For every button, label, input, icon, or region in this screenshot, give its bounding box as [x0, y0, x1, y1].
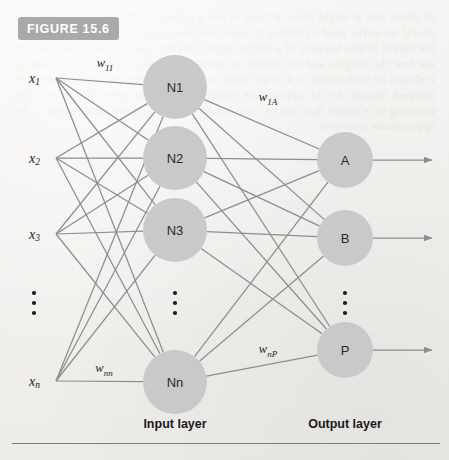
edge-N2-to-A [207, 158, 317, 159]
ellipsis-dot [343, 301, 347, 305]
node-label-A: A [341, 153, 350, 168]
node-label-Nn: Nn [167, 375, 184, 390]
node-N2: N2 [143, 126, 207, 190]
ellipsis-dot [32, 301, 36, 305]
layer-captions: Input layerOutput layer [143, 417, 382, 431]
input-variable-labels: x1x2x3xn [28, 71, 40, 391]
edge-N3-to-A [205, 171, 320, 218]
node-label-N3: N3 [167, 223, 184, 238]
node-label-N1: N1 [167, 80, 184, 95]
node-label-B: B [341, 231, 350, 246]
node-B: B [317, 210, 373, 266]
caption-output-layer: Output layer [308, 417, 382, 431]
edge-x1-to-N1 [56, 78, 143, 85]
output-arrows [373, 160, 432, 350]
edge-N3-to-P [201, 248, 322, 333]
ellipsis-output-layer [343, 291, 347, 315]
weight-label-wnP: wnP [259, 342, 278, 359]
node-label-N2: N2 [167, 151, 184, 166]
node-Nn: Nn [143, 350, 207, 414]
node-N1: N1 [143, 55, 207, 119]
ellipsis-dot [343, 291, 347, 295]
edge-x2-to-Nn [56, 158, 160, 354]
input-label-x1: x1 [28, 71, 40, 88]
ellipsis-dot [32, 291, 36, 295]
ellipsis-dot [343, 311, 347, 315]
node-A: A [317, 132, 373, 188]
edge-xn-to-N3 [56, 255, 155, 381]
node-N3: N3 [143, 198, 207, 262]
edge-N1-to-P [192, 114, 329, 327]
input-layer-nodes: N1N2N3Nn [143, 55, 207, 414]
edge-N3-to-B [207, 232, 317, 237]
weight-label-w11: w11 [97, 56, 114, 73]
edge-N2-to-B [204, 172, 320, 226]
output-layer-nodes: ABP [317, 132, 373, 378]
neural-network-diagram: N1N2N3Nn ABP x1x2x3xn w11wnnw1AwnP Input… [0, 0, 449, 460]
vertical-ellipses [32, 291, 347, 315]
ellipsis-dot [173, 301, 177, 305]
input-label-xn: xn [28, 374, 40, 391]
caption-input-layer: Input layer [143, 417, 206, 431]
weight-label-wnn: wnn [95, 361, 113, 378]
ellipsis-input-layer [173, 291, 177, 315]
edges-input-layer-to-output-layer [192, 100, 329, 376]
ellipsis-dot [173, 291, 177, 295]
ellipsis-dot [32, 311, 36, 315]
edge-N1-to-A [204, 100, 319, 149]
figure-baseline-rule [12, 443, 440, 444]
figure-page: of them, and it might make it hard to se… [0, 0, 449, 460]
node-label-P: P [341, 343, 350, 358]
ellipsis-input-variables [32, 291, 36, 315]
edge-N1-to-B [199, 108, 324, 219]
node-P: P [317, 322, 373, 378]
input-label-x3: x3 [28, 227, 40, 244]
edge-Nn-to-P [206, 355, 317, 376]
ellipsis-dot [173, 311, 177, 315]
weight-label-w1A: w1A [259, 90, 278, 107]
edge-x3-to-N3 [56, 231, 143, 234]
input-label-x2: x2 [28, 151, 40, 168]
edge-xn-to-Nn [56, 381, 143, 382]
